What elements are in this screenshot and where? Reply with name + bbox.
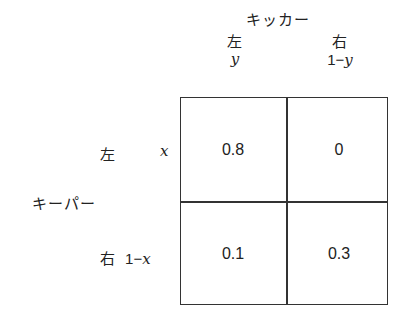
row-strategy-top-name: 左 [100, 146, 116, 164]
column-strategy-right-prob: 1−y [310, 51, 370, 69]
row-player-label: キーパー [32, 192, 96, 213]
prob-variable: x [142, 250, 150, 268]
column-header-right: 右 1−y [310, 34, 370, 69]
column-header-left: 左 y [205, 34, 265, 68]
row-header-top-prob: x [160, 141, 168, 160]
row-header-bottom: 右 1−x [100, 247, 151, 268]
column-strategy-right-name: 右 [310, 34, 370, 51]
column-strategy-left-prob: y [205, 51, 265, 68]
row-header-top: 左 [100, 143, 116, 164]
column-player-label: キッカー [246, 8, 310, 29]
prob-operator: − [336, 51, 345, 68]
column-strategy-left-name: 左 [205, 34, 265, 51]
cell-right-right: 0.3 [287, 202, 391, 305]
payoff-matrix: 0.8 0 0.1 0.3 [180, 97, 388, 305]
cell-left-left: 0.8 [181, 98, 285, 201]
cell-left-right: 0 [287, 98, 391, 201]
row-strategy-bottom-name: 右 [100, 250, 116, 268]
prob-operator: − [133, 250, 142, 267]
row-strategy-top-prob: x [160, 142, 168, 160]
prob-constant: 1 [327, 51, 335, 68]
prob-variable: y [344, 51, 352, 69]
cell-right-left: 0.1 [181, 202, 285, 305]
